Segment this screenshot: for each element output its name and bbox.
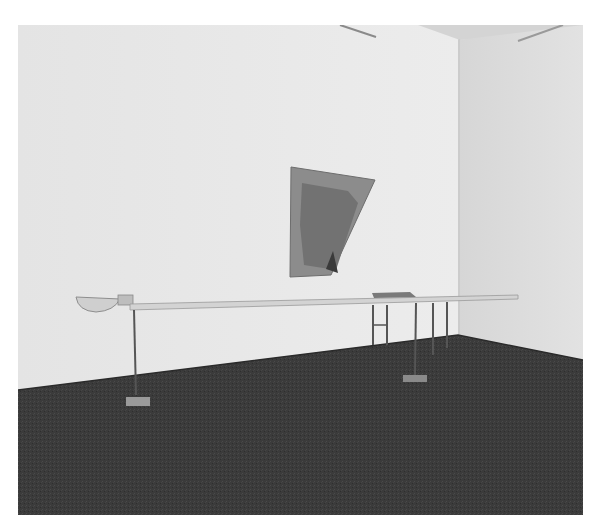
photo-scene: [18, 25, 583, 515]
right-wall: [458, 25, 583, 360]
left-wall: [18, 25, 458, 390]
installation-photo: [18, 25, 583, 515]
